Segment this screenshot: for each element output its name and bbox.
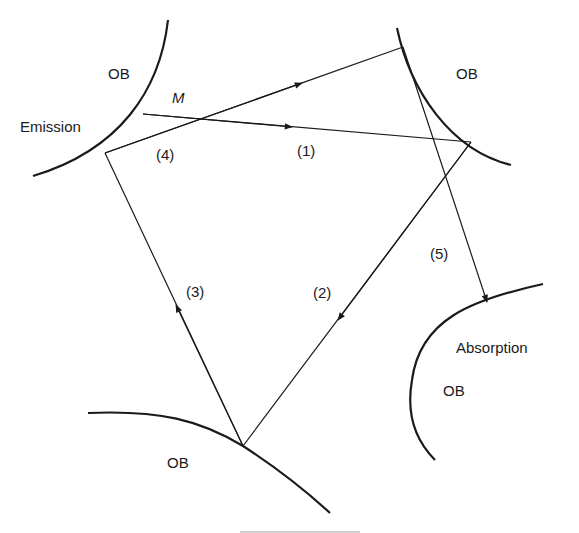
path-3-label: (3) xyxy=(186,284,204,299)
ray-2-arrow xyxy=(338,142,471,320)
ob-label-top-right: OB xyxy=(456,66,478,81)
diagram-drawing xyxy=(0,0,579,533)
ray-1-arrow xyxy=(143,114,292,127)
path-4-label: (4) xyxy=(156,147,174,162)
emission-surface-curve xyxy=(33,20,168,176)
path-2-label: (2) xyxy=(313,285,331,300)
ray-4-arrow xyxy=(105,83,302,153)
ob-label-absorption: OB xyxy=(443,383,465,398)
ray-5 xyxy=(403,47,487,302)
radiation-exchange-diagram: OB Emission M (4) (1) OB (3) (2) (5) Abs… xyxy=(0,0,579,533)
figure-caption-cropped xyxy=(240,528,360,533)
path-1-label: (1) xyxy=(297,143,315,158)
ray-3-arrow xyxy=(176,305,243,446)
point-m-label: M xyxy=(172,90,185,105)
top-right-surface-curve xyxy=(397,28,511,165)
absorption-surface-curve xyxy=(410,284,543,460)
bottom-surface-curve xyxy=(88,412,330,513)
emission-label: Emission xyxy=(20,119,81,134)
absorption-label: Absorption xyxy=(456,340,528,355)
ob-label-bottom: OB xyxy=(167,455,189,470)
path-5-label: (5) xyxy=(430,246,448,261)
ob-label-emission: OB xyxy=(108,66,130,81)
